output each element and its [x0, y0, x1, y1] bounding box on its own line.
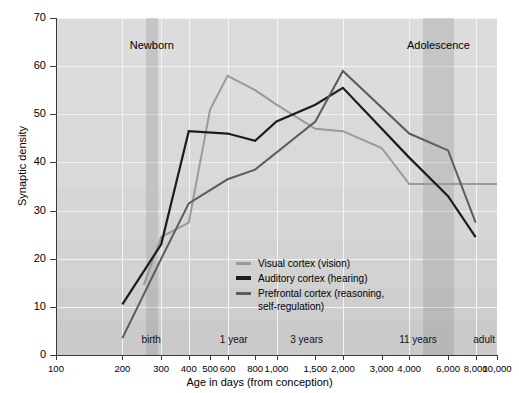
stage-label: 3 years: [290, 334, 323, 345]
legend-swatch-prefrontal: [236, 292, 251, 295]
y-axis-tick: [50, 211, 56, 212]
x-axis-tick-label: 300: [153, 363, 169, 374]
x-axis-tick: [122, 355, 123, 360]
x-axis-tick-label: 600: [220, 363, 236, 374]
legend-swatch-visual: [236, 262, 251, 265]
x-axis-tick: [210, 355, 211, 360]
y-axis-tick: [50, 307, 56, 308]
legend-item-auditory: Auditory cortex (hearing): [236, 272, 384, 285]
stage-label: 11 years: [399, 334, 437, 345]
x-axis-tick: [497, 355, 498, 360]
synaptic-density-chart: birth1 year3 years11 yearsadult Visual c…: [0, 0, 519, 393]
series-line: [144, 76, 497, 285]
x-axis-tick-label: 500: [202, 363, 218, 374]
era-label: Newborn: [130, 39, 174, 51]
x-axis-tick: [189, 355, 190, 360]
x-axis-tick-label: 400: [181, 363, 197, 374]
y-axis-title: Synaptic density: [16, 66, 28, 266]
x-axis-tick-label: 200: [114, 363, 130, 374]
x-axis-tick-label: 1,500: [303, 363, 327, 374]
y-axis-tick: [50, 114, 56, 115]
legend-label-auditory: Auditory cortex (hearing): [258, 272, 368, 285]
stage-label: adult: [473, 334, 495, 345]
x-axis-tick: [228, 355, 229, 360]
y-axis-tick-label: 0: [16, 348, 46, 360]
legend-item-visual: Visual cortex (vision): [236, 257, 384, 270]
legend-label-visual: Visual cortex (vision): [258, 257, 350, 270]
x-axis-tick: [448, 355, 449, 360]
x-axis-tick: [315, 355, 316, 360]
era-label: Adolescence: [407, 39, 470, 51]
x-axis-tick-label: 6,000: [436, 363, 460, 374]
y-axis-tick: [50, 259, 56, 260]
x-axis-tick-label: 2,000: [331, 363, 355, 374]
y-axis-line: [56, 18, 57, 355]
x-axis-tick: [277, 355, 278, 360]
legend-swatch-auditory: [236, 276, 251, 280]
x-axis-tick: [409, 355, 410, 360]
y-axis-tick: [50, 18, 56, 19]
chart-legend: Visual cortex (vision) Auditory cortex (…: [236, 257, 384, 315]
x-axis-tick: [56, 355, 57, 360]
x-axis-tick-label: 1,000: [265, 363, 289, 374]
stage-label: 1 year: [220, 334, 248, 345]
stage-label: birth: [141, 334, 160, 345]
x-axis-tick-label: 10,000: [482, 363, 511, 374]
y-axis-tick-label: 10: [16, 300, 46, 312]
x-axis-tick-label: 100: [48, 363, 64, 374]
x-axis-tick-label: 800: [247, 363, 263, 374]
legend-label-prefrontal: Prefrontal cortex (reasoning, self-regul…: [258, 287, 384, 313]
y-axis-tick: [50, 66, 56, 67]
y-axis-tick: [50, 162, 56, 163]
legend-item-prefrontal: Prefrontal cortex (reasoning, self-regul…: [236, 287, 384, 313]
x-axis-tick: [382, 355, 383, 360]
x-axis-title: Age in days (from conception): [0, 376, 519, 388]
x-axis-tick: [476, 355, 477, 360]
x-axis-tick-label: 3,000: [370, 363, 394, 374]
x-axis-tick: [161, 355, 162, 360]
y-axis-tick-label: 70: [16, 11, 46, 23]
x-axis-tick: [343, 355, 344, 360]
x-axis-tick-label: 4,000: [397, 363, 421, 374]
plot-area: birth1 year3 years11 yearsadult Visual c…: [56, 18, 497, 355]
x-axis-tick: [255, 355, 256, 360]
